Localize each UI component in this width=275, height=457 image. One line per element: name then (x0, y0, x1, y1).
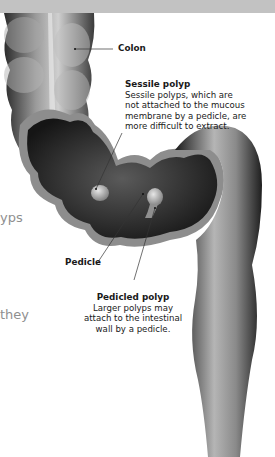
sessile-line: more difficult to extract. (125, 121, 246, 132)
sessile-polyp (91, 185, 109, 201)
pedicled-line: wall by a pedicle. (78, 324, 188, 335)
pedicled-polyp (147, 188, 163, 206)
pedicled-polyp-title: Pedicled polyp (78, 292, 188, 303)
pedicled-line: attach to the intestinal (78, 313, 188, 324)
cutoff-text: they (0, 308, 29, 322)
sessile-polyp-title: Sessile polyp (125, 79, 246, 90)
colon-label: Colon (118, 43, 146, 54)
pedicled-line: Larger polyps may (78, 303, 188, 314)
pedicled-polyp-label: Pedicled polyp Larger polyps may attach … (78, 292, 188, 334)
sessile-line: Sessile polyps, which are (125, 90, 246, 101)
sessile-line: not attached to the mucous (125, 100, 246, 111)
pedicle-label: Pedicle (65, 257, 101, 268)
colon-illustration (0, 0, 275, 457)
sessile-polyp-label: Sessile polyp Sessile polyps, which are … (125, 79, 246, 132)
sessile-line: membrane by a pedicle, are (125, 111, 246, 122)
cutoff-text: yps (0, 211, 23, 225)
